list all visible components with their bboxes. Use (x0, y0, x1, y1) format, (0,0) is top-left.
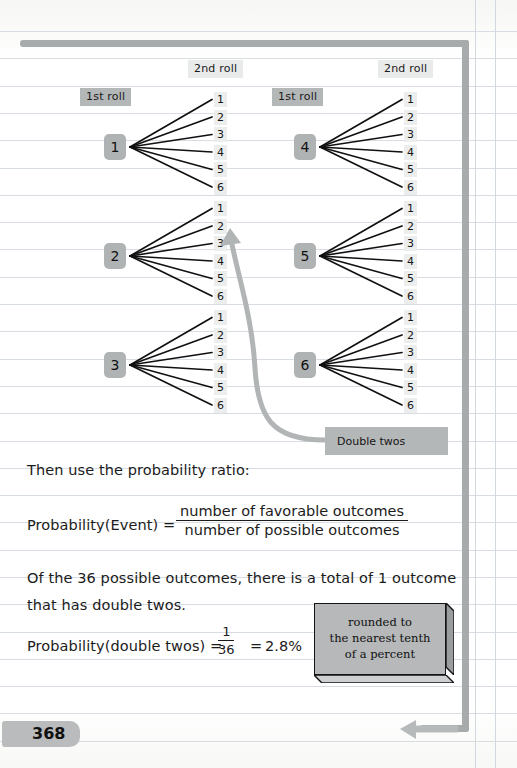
tree-leaf-node: 4 (404, 363, 417, 378)
tree-leaf-node: 4 (404, 145, 417, 160)
tree-leaf-node: 1 (404, 310, 417, 325)
tree-root-node: 6 (294, 352, 316, 378)
formula-double-twos-fraction: 1 36 (218, 624, 235, 657)
double-twos-label: Double twos (325, 427, 448, 455)
intro-text: Then use the probability ratio: (27, 462, 250, 478)
tree-leaf-node: 2 (214, 110, 227, 125)
tree-leaf-node: 4 (404, 254, 417, 269)
tree-diagram: 2123456 (104, 201, 294, 311)
tree-leaf-node: 1 (214, 310, 227, 325)
tree-leaf-node: 5 (214, 271, 227, 286)
tree-root-node: 4 (294, 134, 316, 160)
tree-leaf-node: 2 (214, 219, 227, 234)
column-header-2nd-roll-right: 2nd roll (378, 60, 433, 78)
tree-leaf-node: 5 (214, 162, 227, 177)
tree-root-node: 5 (294, 243, 316, 269)
tree-leaf-node: 1 (404, 92, 417, 107)
bottom-left-arrow-icon (398, 714, 458, 744)
tree-leaf-node: 5 (404, 271, 417, 286)
tree-leaf-node: 3 (404, 236, 417, 251)
rule-line (0, 686, 517, 687)
tree-root-node: 2 (104, 243, 126, 269)
callout-bottom-face (314, 675, 454, 683)
tree-leaf-node: 4 (214, 145, 227, 160)
border-top-bar (20, 40, 469, 47)
paragraph-line-1: Of the 36 possible outcomes, there is a … (27, 570, 456, 586)
tree-root-node: 1 (104, 134, 126, 160)
tree-leaf-node: 5 (404, 380, 417, 395)
rule-line (0, 58, 517, 59)
tree-branches (104, 201, 294, 311)
rule-line (0, 86, 517, 87)
tree-leaf-node: 2 (214, 328, 227, 343)
formula2-denominator: 36 (218, 641, 235, 657)
tree-leaf-node: 5 (404, 162, 417, 177)
tree-leaf-node: 1 (214, 92, 227, 107)
formula-probability-event-label: Probability(Event) = (27, 517, 175, 533)
tree-leaf-node: 5 (214, 380, 227, 395)
tree-leaf-node: 6 (214, 180, 227, 195)
formula-numerator: number of favorable outcomes (176, 503, 408, 521)
tree-leaf-node: 3 (214, 127, 227, 142)
tree-leaf-node: 6 (404, 180, 417, 195)
tree-diagram: 5123456 (294, 201, 484, 311)
margin-rule-far-right (495, 0, 496, 768)
formula2-result: 2.8% (265, 638, 302, 654)
tree-leaf-node: 1 (214, 201, 227, 216)
rule-line (0, 495, 517, 496)
tree-diagram: 4123456 (294, 92, 484, 202)
tree-leaf-node: 3 (404, 127, 417, 142)
tree-diagram: 6123456 (294, 310, 484, 420)
tree-branches (294, 92, 484, 202)
tree-diagram: 1123456 (104, 92, 294, 202)
tree-branches (294, 310, 484, 420)
tree-leaf-node: 1 (404, 201, 417, 216)
rule-line (0, 31, 517, 32)
tree-leaf-node: 6 (214, 398, 227, 413)
formula2-equals-sign: = (250, 638, 262, 654)
formula-denominator: number of possible outcomes (185, 521, 400, 538)
tree-branches (294, 201, 484, 311)
tree-leaf-node: 4 (214, 363, 227, 378)
rounding-callout-box: rounded tothe nearest tenthof a percent (314, 603, 454, 683)
column-header-2nd-roll-left: 2nd roll (188, 60, 243, 78)
paragraph-line-2: that has double twos. (27, 597, 186, 613)
tree-leaf-node: 2 (404, 110, 417, 125)
tree-leaf-node: 2 (404, 328, 417, 343)
tree-leaf-node: 6 (214, 289, 227, 304)
tree-leaf-node: 3 (404, 345, 417, 360)
tree-leaf-node: 3 (214, 236, 227, 251)
formula-double-twos-label: Probability(double twos) = (27, 638, 222, 654)
callout-text: rounded tothe nearest tenthof a percent (314, 603, 446, 675)
tree-leaf-node: 4 (214, 254, 227, 269)
rule-line (0, 550, 517, 551)
callout-side-face (446, 603, 454, 675)
tree-branches (104, 92, 294, 202)
tree-leaf-node: 3 (214, 345, 227, 360)
tree-branches (104, 310, 294, 420)
tree-leaf-node: 2 (404, 219, 417, 234)
page-number: 368 (32, 724, 65, 743)
tree-diagram: 3123456 (104, 310, 294, 420)
notebook-page: 2nd roll 1st roll 2nd roll 1st roll 1123… (0, 0, 517, 768)
formula2-numerator: 1 (218, 624, 234, 641)
formula-probability-event-fraction: number of favorable outcomes number of p… (176, 503, 408, 538)
tree-root-node: 3 (104, 352, 126, 378)
tree-leaf-node: 6 (404, 289, 417, 304)
tree-leaf-node: 6 (404, 398, 417, 413)
